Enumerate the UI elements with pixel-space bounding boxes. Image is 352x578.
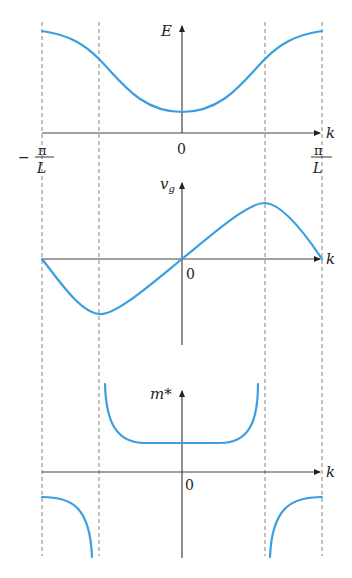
vg-k-label: k (326, 250, 335, 268)
effective-mass-left-branch (42, 497, 92, 557)
energy-origin-label: 0 (177, 141, 186, 157)
mstar-k-label: k (326, 463, 335, 481)
effective-mass-panel: m* k 0 (42, 384, 335, 558)
pi-over-L-label: π L (311, 143, 332, 176)
band-structure-diagram: E k 0 − π L π L vg k 0 m* k 0 (0, 0, 352, 578)
svg-text:π: π (314, 143, 323, 158)
vg-label: vg (160, 175, 175, 194)
effective-mass-right-branch (270, 497, 322, 557)
svg-text:−: − (18, 149, 30, 165)
svg-text:π: π (38, 143, 47, 158)
energy-label: E (160, 22, 172, 40)
neg-pi-over-L-label: − π L (18, 143, 54, 176)
energy-panel: E k 0 − π L π L (18, 22, 335, 176)
group-velocity-panel: vg k 0 (42, 175, 335, 345)
mstar-label: m* (150, 385, 172, 403)
energy-k-label: k (326, 124, 335, 142)
vg-origin-label: 0 (186, 266, 195, 282)
svg-text:L: L (312, 160, 322, 176)
svg-text:L: L (36, 160, 46, 176)
mstar-origin-label: 0 (185, 477, 194, 493)
